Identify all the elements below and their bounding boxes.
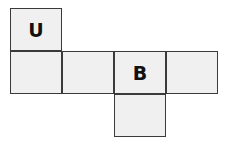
face-b: B [114,51,166,94]
face-row1-col1 [62,51,114,94]
face-row1-col0 [10,51,62,94]
face-label: B [133,62,147,84]
face-u: U [10,8,62,51]
face-bottom [114,94,166,137]
face-row1-col3 [166,51,218,94]
face-label: U [28,19,43,41]
